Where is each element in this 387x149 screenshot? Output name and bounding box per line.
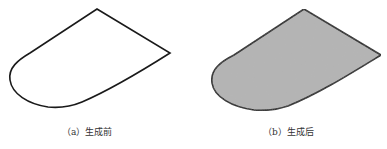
caption-a: （a）生成前 [62,125,112,138]
caption-b: （b）生成后 [263,125,314,138]
panel-b-shape [212,9,381,110]
figure: （a）生成前 （b）生成后 [0,0,387,149]
shapes-canvas [0,0,387,149]
panel-a-shape [10,9,170,107]
